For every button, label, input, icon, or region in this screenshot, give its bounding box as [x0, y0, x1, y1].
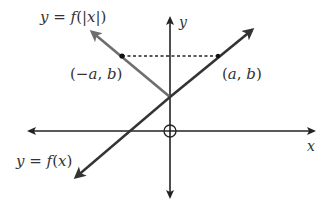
label-pl-minus: −	[76, 65, 89, 83]
label-point-left: (−a, b)	[70, 65, 122, 83]
label-pr-comma: ,	[237, 65, 247, 83]
label-f-abs-close: |)	[96, 8, 107, 26]
point-right	[216, 54, 220, 58]
f-x-line-lower	[76, 97, 170, 177]
label-pr-b: b	[246, 65, 256, 83]
label-pr-a: a	[228, 65, 237, 83]
label-pl-comma: ,	[97, 65, 107, 83]
label-f-abs-open: (|	[76, 8, 87, 26]
label-x-axis: x	[307, 138, 315, 154]
label-point-right: (a, b)	[222, 65, 262, 83]
label-pl-close: )	[117, 65, 123, 83]
label-f-abs-eq: =	[48, 8, 70, 26]
point-left	[119, 53, 124, 58]
label-fx-eq: =	[24, 152, 46, 170]
label-y-axis: y	[178, 14, 188, 30]
label-pl-b: b	[107, 65, 117, 83]
f-x-line-upper	[170, 30, 252, 97]
label-pl-a: a	[88, 65, 97, 83]
label-fx-close: )	[66, 152, 72, 170]
label-f-x: y = f(x)	[15, 152, 72, 170]
label-pr-close: )	[256, 65, 262, 83]
graph-diagram: y = f(|x|) (−a, b) (a, b) y x y = f(x)	[0, 0, 331, 205]
label-f-abs: y = f(|x|)	[39, 8, 106, 26]
